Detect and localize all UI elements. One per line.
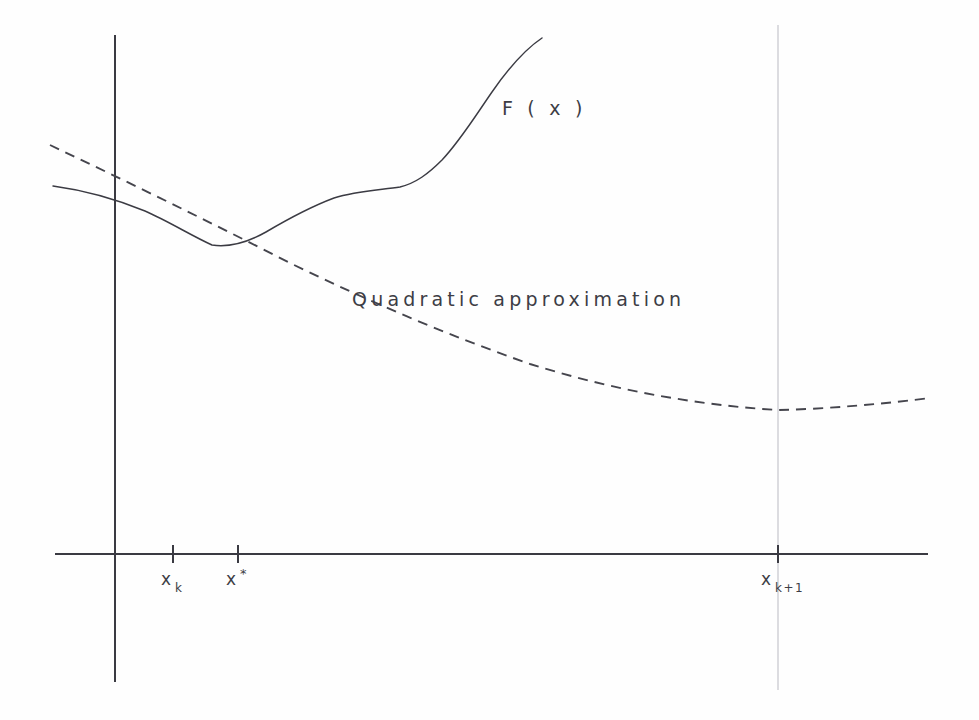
curve-label-fx: F ( x ) — [502, 97, 587, 119]
figure-root: F ( x ) Quadratic approximation x k x * … — [0, 0, 979, 720]
axis-label-xk-base: x — [161, 569, 171, 589]
axis-label-xstar-base: x — [226, 569, 236, 589]
axis-label-xstar-superscript: * — [240, 566, 247, 581]
axis-label-xk1-subscript: k+1 — [775, 581, 804, 595]
figure-canvas: F ( x ) Quadratic approximation x k x * … — [0, 0, 979, 720]
annotation-quadratic-approximation: Quadratic approximation — [352, 288, 685, 310]
figure-background — [0, 0, 979, 720]
axis-label-xk1-base: x — [761, 569, 771, 589]
axis-label-xk-subscript: k — [175, 581, 183, 595]
